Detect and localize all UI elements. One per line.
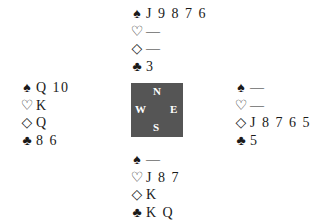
club-icon: ♣ xyxy=(234,132,248,150)
north-clubs: ♣3 xyxy=(130,58,207,76)
compass-north-label: N xyxy=(153,85,161,97)
club-icon: ♣ xyxy=(130,58,144,76)
west-spades: ♠Q 10 xyxy=(20,79,70,97)
north-hearts: ♡— xyxy=(130,23,207,41)
south-clubs: ♣K Q xyxy=(130,204,180,222)
diamond-icon: ◇ xyxy=(130,186,144,204)
east-hearts: ♡— xyxy=(234,97,311,115)
west-clubs: ♣8 6 xyxy=(20,132,70,150)
east-spades: ♠— xyxy=(234,79,311,97)
compass-box: N W E S xyxy=(131,83,183,137)
spade-icon: ♠ xyxy=(20,79,34,97)
south-spades: ♠— xyxy=(130,151,180,169)
spade-icon: ♠ xyxy=(234,79,248,97)
north-hand: ♠J 9 8 7 6 ♡— ◇— ♣3 xyxy=(130,5,207,75)
heart-icon: ♡ xyxy=(130,169,144,187)
compass-east-label: E xyxy=(170,103,177,115)
south-diamonds: ◇K xyxy=(130,186,180,204)
club-icon: ♣ xyxy=(20,132,34,150)
south-hearts: ♡J 8 7 xyxy=(130,169,180,187)
heart-icon: ♡ xyxy=(130,23,144,41)
compass-west-label: W xyxy=(135,103,146,115)
north-spades: ♠J 9 8 7 6 xyxy=(130,5,207,23)
heart-icon: ♡ xyxy=(20,97,34,115)
club-icon: ♣ xyxy=(130,204,144,222)
east-hand: ♠— ♡— ◇J 8 7 6 5 ♣5 xyxy=(234,79,311,149)
north-diamonds: ◇— xyxy=(130,40,207,58)
south-hand: ♠— ♡J 8 7 ◇K ♣K Q xyxy=(130,151,180,221)
heart-icon: ♡ xyxy=(234,97,248,115)
compass-south-label: S xyxy=(153,121,159,133)
diamond-icon: ◇ xyxy=(130,40,144,58)
west-diamonds: ◇Q xyxy=(20,114,70,132)
west-hand: ♠Q 10 ♡K ◇Q ♣8 6 xyxy=(20,79,70,149)
diamond-icon: ◇ xyxy=(234,114,248,132)
diamond-icon: ◇ xyxy=(20,114,34,132)
spade-icon: ♠ xyxy=(130,151,144,169)
west-hearts: ♡K xyxy=(20,97,70,115)
east-diamonds: ◇J 8 7 6 5 xyxy=(234,114,311,132)
spade-icon: ♠ xyxy=(130,5,144,23)
east-clubs: ♣5 xyxy=(234,132,311,150)
